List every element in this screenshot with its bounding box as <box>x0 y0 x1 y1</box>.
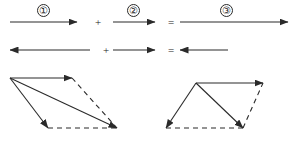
equals-operator: = <box>165 45 177 56</box>
plus-operator: + <box>100 45 112 56</box>
equals-operator: = <box>165 17 177 28</box>
diagram-shapes-group <box>10 78 263 128</box>
equation-rows-group <box>10 22 288 50</box>
vector-number-label: ② <box>127 4 140 17</box>
parallelogram-left-resultant <box>10 78 117 128</box>
vector-diagram-canvas <box>0 0 295 148</box>
triangle-right-component-b <box>196 83 243 128</box>
triangle-right-component-a <box>166 83 196 128</box>
vector-addition-figure: ①+②=③+= <box>0 0 295 148</box>
triangle-right-edge-right <box>243 83 263 128</box>
vector-number-label: ③ <box>220 4 233 17</box>
plus-operator: + <box>92 17 104 28</box>
vector-number-label: ① <box>37 4 50 17</box>
parallelogram-left-component-b <box>10 78 48 128</box>
parallelogram-left-edge-right <box>72 78 117 128</box>
